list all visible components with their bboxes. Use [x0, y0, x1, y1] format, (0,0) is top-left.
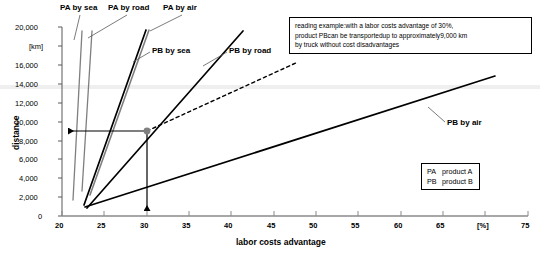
- y-tick-label: 14,000: [15, 80, 38, 89]
- leader-pa-by-air: [150, 15, 182, 31]
- reading-example-line-1: reading example:with a labor costs advan…: [295, 21, 527, 31]
- y-ticks: [58, 27, 62, 216]
- legend-row-pb: PBproduct B: [427, 177, 473, 187]
- x-tick-label: 40: [224, 221, 232, 230]
- legend-box: PAproduct A PBproduct B: [421, 163, 480, 190]
- reading-example-marker: [144, 128, 151, 135]
- reading-example-box: reading example:with a labor costs advan…: [289, 17, 532, 54]
- legend-code-pb: PB: [427, 177, 442, 187]
- series-label-pb-by-road: PB by road: [229, 47, 271, 55]
- x-tick-label: 35: [182, 221, 190, 230]
- series-label-pb-by-sea: PB by sea: [152, 47, 190, 55]
- legend-code-pa: PA: [427, 167, 442, 177]
- leader-pa-by-sea: [74, 15, 80, 40]
- reading-example-line-3: by truck without cost disadvantages: [295, 40, 527, 50]
- legend-label-pb: product B: [442, 177, 473, 186]
- leader-pb-by-air: [428, 107, 445, 122]
- y-axis-title: distance: [11, 116, 21, 151]
- y-tick-label: 2,000: [19, 193, 38, 202]
- y-tick-label: 0: [38, 212, 42, 221]
- line-pa-by-road: [82, 31, 92, 191]
- y-tick-label: 4,000: [19, 174, 38, 183]
- x-axis-unit-label: [%]: [477, 221, 489, 230]
- x-ticks: [62, 211, 528, 216]
- x-tick-label: 75: [521, 221, 529, 230]
- x-tick-label: 20: [55, 221, 63, 230]
- series-label-pb-by-air: PB by air: [447, 119, 482, 127]
- x-tick-label: 60: [394, 221, 402, 230]
- series-label-pa-by-sea: PA by sea: [60, 4, 97, 12]
- y-tick-label: 8,000: [19, 137, 38, 146]
- line-reading-example-dashed: [147, 62, 298, 131]
- chart-root: 0 2,000 4,000 6,000 8,000 10,000 12,000 …: [0, 0, 540, 259]
- series-label-pa-by-air: PA by air: [163, 4, 197, 12]
- x-tick-label: 50: [309, 221, 317, 230]
- legend-label-pa: product A: [442, 167, 472, 176]
- x-tick-label: 45: [267, 221, 275, 230]
- x-axis-title: labor costs advantage: [236, 237, 326, 247]
- series-label-pa-by-road: PA by road: [108, 4, 149, 12]
- x-tick-label: 25: [97, 221, 105, 230]
- line-pa-by-sea: [73, 31, 82, 200]
- y-tick-label: 20,000: [15, 23, 38, 32]
- leader-pa-by-road: [88, 15, 127, 38]
- x-tick-label: 65: [436, 221, 444, 230]
- y-tick-label: 16,000: [15, 61, 38, 70]
- y-tick-label: 12,000: [15, 99, 38, 108]
- x-tick-label: 30: [140, 221, 148, 230]
- y-axis-unit-label: [km]: [29, 42, 43, 51]
- legend-row-pa: PAproduct A: [427, 167, 473, 177]
- y-tick-label: 6,000: [19, 155, 38, 164]
- reading-example-line-2: product PBcan be transportedup to approx…: [295, 31, 527, 41]
- line-pa-by-air: [84, 30, 146, 205]
- x-tick-label: 55: [351, 221, 359, 230]
